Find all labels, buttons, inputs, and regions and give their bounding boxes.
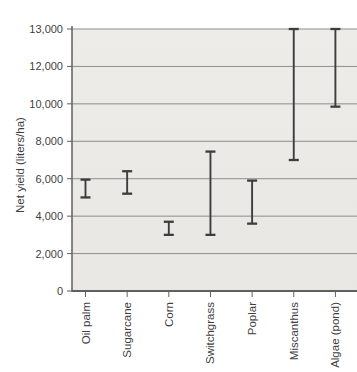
y-tick-label-6000: 6,000 (35, 173, 63, 185)
y-tick-label-13000: 13,000 (29, 23, 63, 35)
net-yield-biofuel-chart: 02,0004,0006,0008,00010,00012,00013,000O… (0, 0, 357, 372)
y-tick-label-8000: 8,000 (35, 135, 63, 147)
y-tick-label-0: 0 (57, 285, 63, 297)
y-tick-label-10000: 10,000 (29, 98, 63, 110)
y-axis-title: Net yield (liters/ha) (14, 117, 26, 213)
x-category-label-corn: Corn (163, 302, 175, 327)
plot-area (72, 29, 357, 291)
y-tick-label-12000: 12,000 (29, 60, 63, 72)
y-tick-label-4000: 4,000 (35, 210, 63, 222)
x-category-label-poplar: Poplar (246, 302, 258, 335)
x-category-label-oil-palm: Oil palm (80, 302, 92, 344)
x-category-label-sugarcane: Sugarcane (121, 302, 133, 358)
chart-canvas: 02,0004,0006,0008,00010,00012,00013,000O… (0, 0, 357, 372)
x-category-label-algae-pond: Algae (pond) (329, 302, 341, 368)
y-tick-label-2000: 2,000 (35, 248, 63, 260)
x-category-label-switchgrass: Switchgrass (204, 302, 216, 364)
x-category-label-miscanthus: Miscanthus (288, 302, 300, 360)
